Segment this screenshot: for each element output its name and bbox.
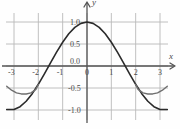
x-tick-label: 2 bbox=[134, 68, 138, 77]
x-axis-title: x bbox=[168, 51, 173, 61]
axes bbox=[2, 2, 175, 123]
x-tick-label: -1 bbox=[57, 68, 64, 77]
x-tick-label: 3 bbox=[158, 68, 162, 77]
y-tick-label: -1.0 bbox=[68, 106, 81, 115]
x-tick-label: -3 bbox=[8, 68, 15, 77]
x-tick-label: 1 bbox=[109, 68, 113, 77]
y-tick-label: 0.0 bbox=[70, 57, 80, 66]
x-tick-label: 0 bbox=[85, 68, 89, 77]
graph-figure: -3-2-10123-1.0-0.50.00.51.0 xy bbox=[0, 0, 180, 129]
x-tick-label: -2 bbox=[32, 68, 39, 77]
y-tick-label: -0.5 bbox=[68, 84, 81, 93]
y-tick-label: 1.0 bbox=[70, 18, 80, 27]
y-tick-label: 0.5 bbox=[70, 40, 80, 49]
cosine-graph-svg: -3-2-10123-1.0-0.50.00.51.0 xy bbox=[0, 0, 180, 129]
axis-titles: xy bbox=[91, 0, 173, 61]
y-axis-title: y bbox=[91, 0, 96, 7]
